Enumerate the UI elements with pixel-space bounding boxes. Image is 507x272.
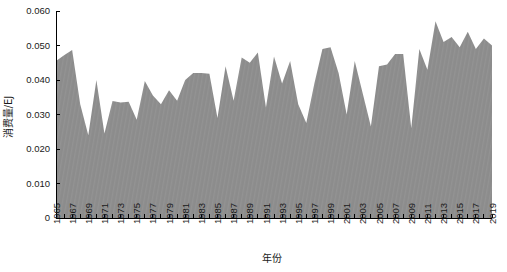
x-axis-title: 年份 bbox=[262, 252, 282, 264]
x-tick-label: 1985 bbox=[212, 203, 223, 224]
x-tick-label: 2007 bbox=[390, 203, 401, 224]
x-tick-label: 1977 bbox=[147, 203, 158, 224]
chart-figure: 00.0100.0200.0300.0400.0500.060 19651967… bbox=[0, 0, 507, 272]
x-tick-label: 2017 bbox=[470, 203, 481, 224]
x-tick-label: 2009 bbox=[406, 203, 417, 224]
x-tick-label: 2001 bbox=[341, 203, 352, 224]
x-tick-label: 1965 bbox=[51, 203, 62, 224]
y-tick-label: 0.040 bbox=[26, 74, 50, 85]
x-tick-label: 1995 bbox=[293, 203, 304, 224]
x-tick-label: 2013 bbox=[438, 203, 449, 224]
x-tick-label: 2011 bbox=[422, 204, 433, 224]
area-fill bbox=[56, 21, 492, 218]
y-tick-label: 0.030 bbox=[26, 109, 50, 120]
y-tick-label: 0 bbox=[45, 212, 50, 223]
y-tick-label: 0.010 bbox=[26, 178, 50, 189]
y-tick-label: 0.060 bbox=[26, 5, 50, 16]
x-tick-label: 1981 bbox=[180, 203, 191, 224]
y-tick-label: 0.050 bbox=[26, 40, 50, 51]
y-tick-label: 0.020 bbox=[26, 143, 50, 154]
y-axis-tick-labels: 00.0100.0200.0300.0400.0500.060 bbox=[26, 5, 50, 223]
x-tick-label: 1967 bbox=[67, 203, 78, 224]
x-tick-label: 1975 bbox=[131, 203, 142, 224]
x-tick-label: 1999 bbox=[325, 203, 336, 224]
x-tick-label: 1993 bbox=[277, 203, 288, 224]
area-chart: 00.0100.0200.0300.0400.0500.060 19651967… bbox=[0, 0, 507, 272]
x-tick-label: 1991 bbox=[261, 203, 272, 224]
x-tick-label: 2015 bbox=[454, 203, 465, 224]
x-tick-label: 2003 bbox=[357, 203, 368, 224]
x-tick-label: 1997 bbox=[309, 203, 320, 224]
x-tick-label: 1989 bbox=[244, 203, 255, 224]
x-tick-label: 1969 bbox=[83, 203, 94, 224]
x-tick-label: 2019 bbox=[487, 203, 498, 224]
y-axis-title: 消费量/EJ bbox=[2, 96, 14, 139]
x-tick-label: 1983 bbox=[196, 203, 207, 224]
x-tick-label: 2005 bbox=[374, 203, 385, 224]
x-tick-label: 1987 bbox=[228, 203, 239, 224]
x-tick-label: 1979 bbox=[164, 203, 175, 224]
x-tick-label: 1973 bbox=[115, 203, 126, 224]
x-tick-label: 1971 bbox=[99, 203, 110, 224]
data-area-series bbox=[56, 21, 492, 218]
